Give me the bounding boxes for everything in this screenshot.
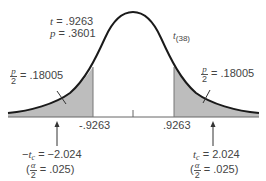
right-critical-value: = 2.024 xyxy=(203,148,240,160)
left-p-over-2: p 2 xyxy=(10,67,17,86)
alpha-value: = .025) xyxy=(40,163,75,175)
p-symbol: p xyxy=(50,27,56,39)
left-critical-value: = −2.024 xyxy=(38,148,81,160)
axis-label-pos-t: .9263 xyxy=(163,120,191,131)
left-tail-value: = .18005 xyxy=(20,69,63,81)
right-tail-value: = .18005 xyxy=(211,67,254,79)
p-value: = .3601 xyxy=(59,27,96,39)
frac-den: 2 xyxy=(10,77,17,86)
distribution-label: t(38) xyxy=(173,30,190,44)
alpha-den: 2 xyxy=(194,171,201,180)
dist-df: (38) xyxy=(176,34,190,43)
t-statistic-label: t = .9263 xyxy=(50,16,93,27)
p-value-label: p = .3601 xyxy=(50,28,96,39)
right-p-over-2: p 2 xyxy=(201,65,208,84)
frac-den: 2 xyxy=(201,75,208,84)
t-value: = .9263 xyxy=(56,15,93,27)
right-critical-arrow xyxy=(211,121,216,146)
density-curve xyxy=(8,12,259,113)
left-alpha-label: (α2 = .025) xyxy=(26,161,74,180)
left-critical-arrow xyxy=(55,121,60,146)
alpha-over-2: α2 xyxy=(30,161,37,180)
left-tail-area-label: p 2 = .18005 xyxy=(10,67,63,86)
right-tail-area-label: p 2 = .18005 xyxy=(201,65,254,84)
alpha-den: 2 xyxy=(30,171,37,180)
alpha-value: = .025) xyxy=(204,163,239,175)
t-symbol: t xyxy=(50,15,53,27)
alpha-over-2: α2 xyxy=(194,161,201,180)
right-alpha-label: (α2 = .025) xyxy=(190,161,238,180)
axis-label-neg-t: -.9263 xyxy=(79,120,110,131)
